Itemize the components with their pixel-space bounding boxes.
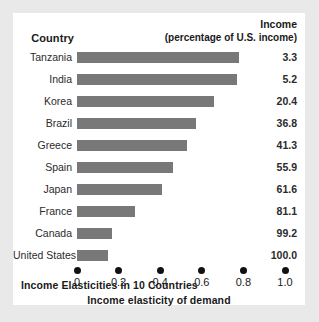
income-value: 5.2 — [245, 73, 297, 85]
income-value: 61.6 — [245, 183, 297, 195]
figure-card: Country Income (percentage of U.S. incom… — [13, 13, 305, 305]
income-value: 41.3 — [245, 139, 297, 151]
chart-row: India5.2 — [13, 69, 305, 91]
axis-tick-dot — [157, 267, 164, 274]
country-label: Korea — [13, 95, 72, 107]
axis-tick-label: 0.8 — [223, 276, 263, 288]
income-value: 81.1 — [245, 205, 297, 217]
axis-tick-label: 1.0 — [265, 276, 305, 288]
axis-tick-dot — [115, 267, 122, 274]
country-column-header: Country — [13, 32, 74, 44]
income-header-line2: (percentage of U.S. income) — [165, 31, 297, 45]
chart-rows: Tanzania3.3India5.2Korea20.4Brazil36.8Gr… — [13, 47, 305, 267]
country-label: France — [13, 205, 72, 217]
figure-caption: Income Elasticities in 10 Countries — [21, 279, 198, 291]
income-value: 3.3 — [245, 51, 297, 63]
income-value: 36.8 — [245, 117, 297, 129]
chart-row: Canada99.2 — [13, 223, 305, 245]
bar — [77, 162, 173, 173]
chart-row: Japan61.6 — [13, 179, 305, 201]
income-column-header: Income (percentage of U.S. income) — [165, 17, 297, 45]
chart-row: France81.1 — [13, 201, 305, 223]
bar — [77, 52, 239, 63]
axis-tick-dot — [240, 267, 247, 274]
chart-row: Spain55.9 — [13, 157, 305, 179]
bar — [77, 118, 196, 129]
bar — [77, 184, 162, 195]
country-label: Canada — [13, 227, 72, 239]
column-headers: Country Income (percentage of U.S. incom… — [13, 17, 305, 47]
chart-row: Korea20.4 — [13, 91, 305, 113]
country-label: Spain — [13, 161, 72, 173]
income-value: 55.9 — [245, 161, 297, 173]
chart-row: Greece41.3 — [13, 135, 305, 157]
income-value: 100.0 — [245, 249, 297, 261]
income-header-line1: Income — [165, 17, 297, 31]
x-axis-title: Income elasticity of demand — [13, 294, 305, 306]
chart-row: Brazil36.8 — [13, 113, 305, 135]
country-label: Tanzania — [13, 51, 72, 63]
country-label: Brazil — [13, 117, 72, 129]
chart-row: Tanzania3.3 — [13, 47, 305, 69]
axis-tick-dot — [74, 267, 81, 274]
bar — [77, 206, 135, 217]
bar — [77, 140, 187, 151]
axis-tick-dot — [282, 267, 289, 274]
bar — [77, 228, 112, 239]
income-value: 99.2 — [245, 227, 297, 239]
bar — [77, 74, 237, 85]
country-label: India — [13, 73, 72, 85]
country-label: Greece — [13, 139, 72, 151]
country-label: United States — [13, 249, 72, 261]
bar — [77, 250, 108, 261]
axis-tick-dot — [198, 267, 205, 274]
country-label: Japan — [13, 183, 72, 195]
bar — [77, 96, 214, 107]
chart-row: United States100.0 — [13, 245, 305, 267]
income-value: 20.4 — [245, 95, 297, 107]
